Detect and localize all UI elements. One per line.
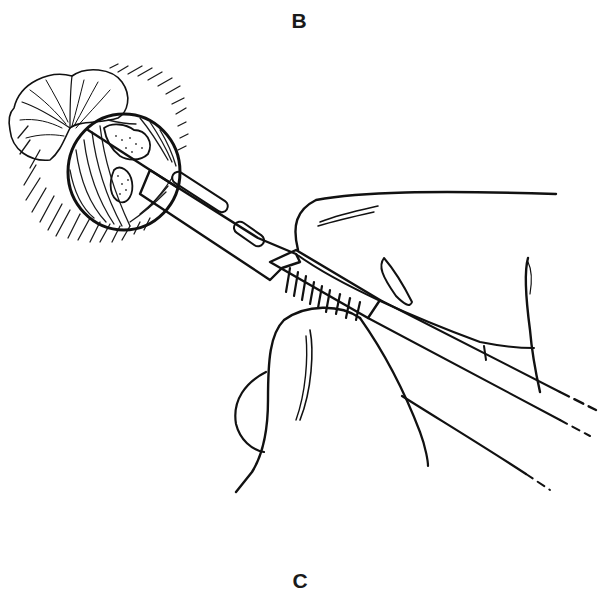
lower-thumb bbox=[235, 308, 550, 492]
panel-label-c: C bbox=[280, 569, 320, 593]
upper-finger bbox=[295, 192, 556, 392]
lesion-dome bbox=[68, 114, 180, 230]
surgical-illustration bbox=[0, 0, 607, 608]
